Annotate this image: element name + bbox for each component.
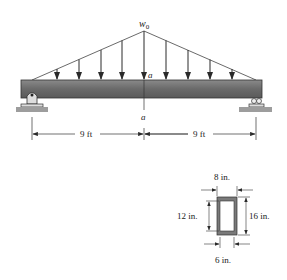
beam-diagram: w0 a a 9 ft 9 ft [0,0,287,280]
span-right-label: 9 ft [193,129,206,139]
outer-width-label: 8 in. [214,172,230,182]
load-arrows [57,31,232,79]
section-label-top: a [148,70,153,80]
inner-width-label: 6 in. [215,255,231,265]
inner-height-label: 12 in. [177,211,198,221]
cross-section: 8 in. 6 in. 12 in. 16 in. [177,172,270,265]
section-label-bottom: a [141,112,146,122]
span-left-label: 9 ft [80,129,93,139]
distributed-load: w0 [32,18,256,80]
outer-height-label: 16 in. [249,211,270,221]
load-label: w0 [139,18,150,31]
roller-support-icon [239,99,272,113]
inner-opening [220,201,234,231]
beam [21,80,262,98]
